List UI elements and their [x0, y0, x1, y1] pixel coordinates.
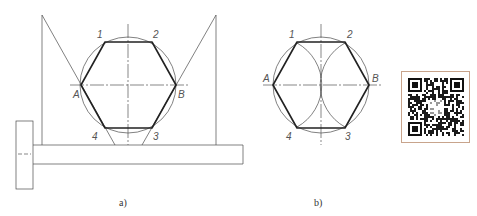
figure-b-caption: b) [314, 197, 322, 209]
point-label-1: 1 [289, 29, 295, 40]
point-label-2: 2 [346, 29, 353, 40]
qr-code-icon [408, 78, 464, 136]
point-label-a: A [262, 73, 270, 84]
figure-a-caption: a) [119, 197, 127, 209]
t-square-blade [33, 145, 243, 164]
qr-finder [412, 126, 418, 132]
qr-finder [412, 82, 418, 88]
point-label-3: 3 [153, 131, 159, 142]
point-label-b: B [178, 89, 185, 100]
figure-b: 1 2 A B 3 4 b) [262, 24, 381, 209]
figure-a: 1 2 A B 3 4 a) [16, 15, 243, 209]
t-square-head [16, 121, 33, 189]
point-label-2: 2 [152, 29, 159, 40]
point-label-a: A [72, 89, 80, 100]
point-label-4: 4 [286, 131, 292, 142]
point-label-b: B [372, 73, 379, 84]
point-label-3: 3 [345, 131, 351, 142]
qr-code-frame[interactable] [401, 71, 470, 143]
point-label-4: 4 [92, 131, 98, 142]
qr-finder [454, 82, 460, 88]
point-label-1: 1 [97, 29, 103, 40]
